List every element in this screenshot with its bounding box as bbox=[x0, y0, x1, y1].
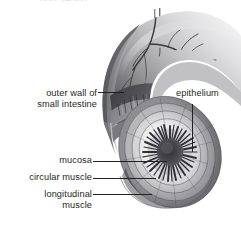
outer-wall-leader bbox=[98, 92, 124, 93]
intestine-figure: cross-section bbox=[0, 0, 241, 227]
label-epithelium: epithelium bbox=[176, 88, 240, 99]
label-outer-wall-of-small-intestine: outer wall of small intestine bbox=[1, 88, 97, 111]
epithelium-leader bbox=[192, 104, 193, 152]
circular-muscle-leader bbox=[93, 178, 156, 179]
label-longitudinal-muscle: longitudinal muscle bbox=[0, 189, 92, 212]
label-circular-muscle: circular muscle bbox=[0, 172, 92, 183]
mucosa-leader bbox=[93, 161, 167, 162]
longitudinal-muscle-leader bbox=[93, 194, 152, 195]
label-mucosa: mucosa bbox=[4, 155, 92, 166]
